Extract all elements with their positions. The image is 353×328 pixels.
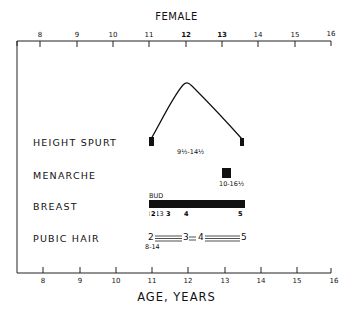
top-tick-11: 11: [145, 31, 154, 39]
bottom-tick-11: 11: [148, 277, 157, 285]
bottom-tick-10: 10: [112, 277, 121, 285]
bottom-tick-13: 13: [221, 277, 230, 285]
top-axis-ticks: [40, 41, 295, 47]
breast-stage-4: 4: [183, 201, 190, 220]
top-tick-10: 10: [109, 31, 118, 39]
pubic-stage-4: 4: [198, 232, 204, 242]
breast-stage-bar: [149, 200, 245, 208]
bottom-tick-16: 16: [330, 277, 339, 285]
pubic-stage-3: 3: [183, 232, 189, 242]
x-axis-label: AGE, YEARS: [0, 290, 353, 304]
bottom-tick-9: 9: [78, 277, 82, 285]
bottom-tick-12: 12: [184, 277, 193, 285]
bottom-tick-8: 8: [41, 277, 45, 285]
menarche-marker: [222, 168, 231, 178]
top-tick-8: 8: [38, 31, 42, 39]
pubic-range: 8-14: [145, 243, 160, 251]
bottom-tick-15: 15: [293, 277, 302, 285]
top-tick-13: 13: [217, 31, 227, 39]
top-tick-12: 12: [181, 31, 191, 39]
top-tick-9: 9: [75, 31, 79, 39]
height-spurt-end-marker: [240, 138, 244, 146]
height-spurt-range: 9½-14½: [177, 148, 204, 156]
top-tick-15: 15: [291, 31, 300, 39]
row-label-pubic-hair: PUBIC HAIR: [33, 233, 100, 244]
pubic-stage-2: 2: [148, 232, 154, 242]
breast-stage-3: 3: [165, 201, 172, 220]
breast-stage-2: 2: [150, 201, 157, 220]
bottom-axis-ticks: [43, 267, 297, 273]
height-spurt-curve: [151, 83, 242, 139]
row-label-breast: BREAST: [33, 201, 78, 212]
bottom-tick-14: 14: [257, 277, 266, 285]
top-tick-16: 16: [327, 30, 336, 38]
menarche-range: 10-16½: [219, 180, 244, 188]
height-spurt-start-marker: [149, 137, 154, 146]
pubic-stage-5: 5: [241, 232, 247, 242]
top-tick-14: 14: [254, 31, 263, 39]
breast-bud-label: BUD: [149, 192, 163, 200]
row-label-menarche: MENARCHE: [33, 170, 96, 181]
row-label-height-spurt: HEIGHT SPURT: [33, 137, 117, 148]
breast-stage-5: 5: [237, 201, 244, 220]
